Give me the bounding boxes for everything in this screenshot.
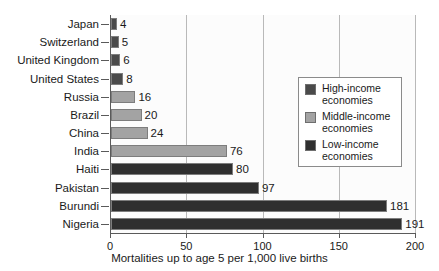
- legend-item: Middle-income economies: [305, 111, 396, 134]
- category-label: Switzerland: [40, 36, 99, 48]
- cropped-text-remnant: · · ·: [14, 0, 314, 4]
- category-label: Nigeria: [63, 218, 99, 230]
- y-axis-tick: [101, 188, 109, 189]
- bar-value-label: 16: [138, 91, 151, 103]
- bar-value-label: 97: [262, 182, 275, 194]
- y-axis-tick: [101, 151, 109, 152]
- y-axis-tick: [101, 169, 109, 170]
- x-axis-tick-label: 200: [406, 240, 424, 252]
- bar: [111, 91, 135, 103]
- category-label: Burundi: [59, 200, 99, 212]
- bar-value-label: 24: [151, 127, 164, 139]
- chart-legend: High-income economiesMiddle-income econo…: [298, 77, 402, 167]
- bar-value-label: 80: [236, 163, 249, 175]
- y-axis-tick: [101, 24, 109, 25]
- bar-row: United Kingdom6: [110, 51, 415, 69]
- category-label: India: [74, 145, 99, 157]
- bar-value-label: 76: [230, 145, 243, 157]
- bar-row: Nigeria191: [110, 215, 415, 233]
- bar-value-label: 191: [405, 218, 424, 230]
- category-label: Japan: [68, 18, 99, 30]
- bar: [111, 127, 148, 139]
- bar: [111, 36, 119, 48]
- y-axis-tick: [101, 79, 109, 80]
- legend-item: Low-income economies: [305, 139, 396, 162]
- y-axis-tick: [101, 115, 109, 116]
- bar: [111, 73, 123, 85]
- category-label: China: [69, 127, 99, 139]
- bar: [111, 54, 120, 66]
- bar: [111, 109, 142, 121]
- bar-value-label: 4: [120, 18, 126, 30]
- bar-row: Switzerland5: [110, 33, 415, 51]
- x-axis-tick-label: 0: [107, 240, 113, 252]
- x-axis-tick-label: 100: [253, 240, 271, 252]
- y-axis-tick: [101, 97, 109, 98]
- x-axis-title: Mortalities up to age 5 per 1,000 live b…: [0, 252, 439, 264]
- category-label: Haiti: [76, 163, 99, 175]
- bar-value-label: 5: [122, 36, 128, 48]
- category-label: United States: [30, 73, 99, 85]
- y-axis-tick: [101, 206, 109, 207]
- bar: [111, 18, 117, 30]
- gridline: [415, 15, 416, 233]
- chart-figure: · · · 050100150200Japan4Switzerland5Unit…: [0, 0, 439, 271]
- bar-value-label: 181: [390, 200, 409, 212]
- legend-swatch-middle: [305, 112, 316, 123]
- bar: [111, 200, 387, 212]
- plot-area: 050100150200Japan4Switzerland5United Kin…: [110, 15, 415, 233]
- legend-label: High-income economies: [322, 83, 381, 106]
- bar: [111, 218, 402, 230]
- bar: [111, 182, 259, 194]
- legend-label: Middle-income economies: [322, 111, 390, 134]
- x-axis-tick-label: 150: [330, 240, 348, 252]
- category-label: Brazil: [70, 109, 99, 121]
- y-axis-tick: [101, 224, 109, 225]
- bar: [111, 163, 233, 175]
- legend-swatch-high: [305, 84, 316, 95]
- x-axis-line: [110, 233, 416, 234]
- bar-row: Burundi181: [110, 197, 415, 215]
- legend-swatch-low: [305, 140, 316, 151]
- bar: [111, 145, 227, 157]
- bar-row: Pakistan97: [110, 179, 415, 197]
- legend-item: High-income economies: [305, 83, 396, 106]
- legend-label: Low-income economies: [322, 139, 379, 162]
- y-axis-tick: [101, 60, 109, 61]
- category-label: Pakistan: [55, 182, 99, 194]
- category-label: Russia: [64, 91, 99, 103]
- bar-value-label: 8: [126, 73, 132, 85]
- category-label: United Kingdom: [17, 54, 99, 66]
- y-axis-tick: [101, 133, 109, 134]
- y-axis-tick: [101, 42, 109, 43]
- bar-row: Japan4: [110, 15, 415, 33]
- bar-value-label: 6: [123, 54, 129, 66]
- bar-value-label: 20: [145, 109, 158, 121]
- x-axis-tick-label: 50: [180, 240, 192, 252]
